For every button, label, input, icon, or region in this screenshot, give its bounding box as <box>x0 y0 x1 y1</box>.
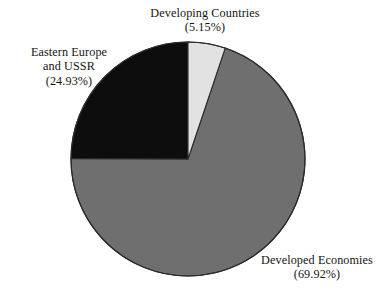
pie-label-developed-economies-value: (69.92%) <box>245 267 389 281</box>
pie-label-eastern-europe-ussr-name-line1: Eastern Europe <box>6 45 132 59</box>
pie-chart-figure: Developing Countries (5.15%) Eastern Eur… <box>0 0 391 294</box>
pie-label-eastern-europe-ussr-name-line2: and USSR <box>6 59 132 73</box>
pie-label-developed-economies-name: Developed Economies <box>245 253 389 267</box>
pie-label-developing-countries-name: Developing Countries <box>137 6 273 20</box>
pie-label-developing-countries-value: (5.15%) <box>137 20 273 34</box>
pie-label-eastern-europe-ussr: Eastern Europe and USSR (24.93%) <box>6 45 132 88</box>
pie-label-developing-countries: Developing Countries (5.15%) <box>137 6 273 35</box>
pie-label-developed-economies: Developed Economies (69.92%) <box>245 253 389 282</box>
pie-label-eastern-europe-ussr-value: (24.93%) <box>6 74 132 88</box>
